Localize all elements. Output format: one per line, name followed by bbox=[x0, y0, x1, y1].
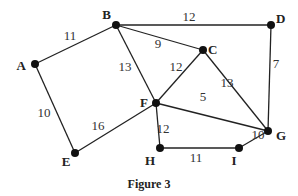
node-label-E: E bbox=[62, 154, 71, 169]
edge-weight-B-F: 13 bbox=[119, 59, 132, 74]
node-G bbox=[264, 127, 272, 135]
node-C bbox=[199, 46, 207, 54]
node-label-G: G bbox=[276, 128, 286, 143]
node-label-F: F bbox=[140, 95, 148, 110]
edge-C-G bbox=[203, 50, 268, 131]
node-A bbox=[31, 60, 39, 68]
weighted-graph-figure: 11101291312137516121110 ABCDEFGHI Figure… bbox=[0, 0, 298, 196]
node-F bbox=[152, 99, 160, 107]
edge-D-G bbox=[268, 25, 271, 131]
edge-weight-D-G: 7 bbox=[273, 56, 280, 71]
node-H bbox=[156, 144, 164, 152]
node-D bbox=[267, 21, 275, 29]
node-E bbox=[71, 149, 79, 157]
node-B bbox=[112, 21, 120, 29]
edge-weight-F-G: 5 bbox=[200, 89, 207, 104]
edge-weight-A-E: 10 bbox=[38, 105, 51, 120]
node-I bbox=[235, 144, 243, 152]
edge-weight-A-B: 11 bbox=[64, 28, 77, 43]
edge-C-F bbox=[156, 50, 203, 103]
edge-weight-C-G: 13 bbox=[221, 75, 234, 90]
edge-weight-I-G: 10 bbox=[252, 127, 265, 142]
graph-edges bbox=[35, 25, 271, 153]
node-label-H: H bbox=[145, 153, 155, 168]
edge-E-F bbox=[75, 103, 156, 153]
edge-weight-H-I: 11 bbox=[190, 150, 203, 165]
node-label-B: B bbox=[102, 7, 111, 22]
edge-weight-E-F: 16 bbox=[92, 118, 106, 133]
figure-caption: Figure 3 bbox=[128, 177, 171, 191]
edge-weight-B-D: 12 bbox=[183, 9, 196, 24]
node-label-D: D bbox=[276, 11, 285, 26]
node-label-A: A bbox=[17, 58, 27, 73]
edge-weight-C-F: 12 bbox=[170, 59, 183, 74]
edge-weight-F-H: 12 bbox=[157, 121, 170, 136]
node-label-C: C bbox=[208, 42, 217, 57]
edge-weights: 11101291312137516121110 bbox=[38, 9, 280, 165]
edge-weight-B-C: 9 bbox=[155, 36, 162, 51]
node-label-I: I bbox=[231, 153, 236, 168]
